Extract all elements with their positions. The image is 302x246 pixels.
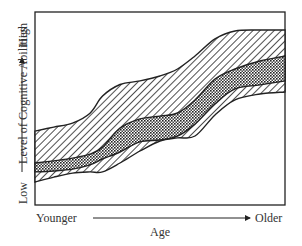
x-end-label: Older <box>255 211 282 225</box>
x-axis-label: Age <box>150 225 170 239</box>
y-low-label: Low <box>16 182 30 204</box>
y-high-label: High <box>16 23 30 47</box>
x-start-label: Younger <box>36 211 77 225</box>
bands-group <box>35 30 285 182</box>
cognitive-abilities-diagram: Low Level of Cognitive Abilities High Yo… <box>0 0 302 246</box>
